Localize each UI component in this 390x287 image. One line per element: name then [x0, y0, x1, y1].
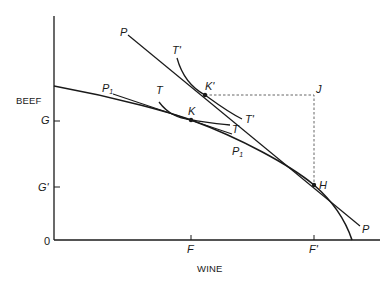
point-h-label: H — [319, 180, 327, 191]
indifference-t-prime-label-top: T' — [172, 45, 181, 56]
indifference-t-prime-label-end: T' — [245, 114, 254, 125]
origin-label: 0 — [44, 236, 50, 247]
tick-label-g-prime: G' — [38, 182, 49, 193]
tick-label-f: F — [187, 244, 194, 255]
price-line-label-top: P — [120, 27, 127, 38]
price-line-label-bottom: P — [362, 224, 369, 235]
diagram-canvas — [0, 0, 390, 287]
indifference-t-label-end: T — [232, 124, 239, 135]
point-k-prime-label: K' — [205, 81, 214, 92]
ppf-label-upper: P1 — [102, 83, 113, 95]
point-k — [189, 118, 193, 122]
point-h — [312, 183, 316, 187]
indifference-t-label-top: T — [156, 85, 163, 96]
tick-label-g: G — [41, 115, 50, 126]
point-k-label: K — [188, 106, 195, 117]
tick-label-f-prime: F' — [309, 244, 318, 255]
world-price-line — [128, 35, 360, 226]
x-axis-title: WINE — [197, 264, 223, 274]
ppf-label-lower-subscript: 1 — [239, 151, 243, 158]
dashed-trade-triangle — [205, 95, 314, 185]
production-possibility-curve — [54, 86, 352, 240]
ppf-label-subscript: 1 — [109, 88, 113, 95]
point-j-label: J — [316, 84, 322, 95]
ppf-label-lower: P1 — [232, 146, 243, 158]
y-axis-title: BEEF — [16, 96, 42, 106]
point-k-prime — [203, 93, 207, 97]
